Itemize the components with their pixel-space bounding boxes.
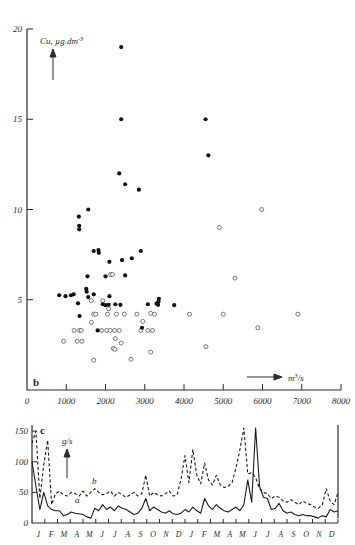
panel-c-month-label: O: [150, 530, 156, 539]
data-point-open: [233, 276, 237, 280]
data-point-filled: [92, 249, 96, 253]
data-point-open: [153, 312, 157, 316]
panel-b-y-tick-label: 20: [13, 24, 23, 34]
data-point-filled: [123, 273, 127, 277]
panel-c-month-label: A: [277, 530, 283, 539]
data-point-open: [260, 208, 264, 212]
panel-c-month-label: J: [37, 530, 41, 539]
data-point-filled: [140, 326, 144, 330]
panel-b-x-tick-label: 6000: [254, 396, 273, 406]
panel-c-y-arrow-icon: [64, 449, 70, 478]
data-point-open: [146, 328, 150, 332]
panel-b-x-ticks: 010002000300040005000600070008000: [25, 384, 351, 406]
data-point-open: [114, 312, 118, 316]
panel-c-month-label: D: [328, 530, 335, 539]
data-point-open: [113, 328, 117, 332]
data-point-open: [89, 320, 93, 324]
panel-b-label: b: [33, 376, 39, 388]
data-point-filled: [92, 292, 96, 296]
panel-b-x-tick-label: 4000: [175, 396, 194, 406]
panel-b-axis-lines: [27, 29, 341, 390]
panel-b-x-tick-label: 3000: [135, 396, 155, 406]
data-point-filled: [85, 274, 89, 278]
panel-b-y-arrow-icon: [50, 49, 56, 80]
data-point-filled: [77, 227, 81, 231]
panel-b-y-tick-label: 15: [13, 114, 23, 124]
panel-c-month-label: N: [315, 530, 322, 539]
data-point-open: [129, 357, 133, 361]
data-point-filled: [117, 171, 121, 175]
data-point-filled: [77, 224, 81, 228]
panel-c-month-label: F: [201, 530, 207, 539]
data-point-open: [217, 226, 221, 230]
panel-c-y-tick-label: 50: [19, 487, 29, 497]
data-point-open: [75, 339, 79, 343]
panel-c-month-label: O: [303, 530, 309, 539]
data-point-filled: [146, 302, 150, 306]
data-point-open: [111, 272, 115, 276]
panel-c-y-tick-label: 100: [15, 457, 29, 467]
panel-c-month-label: M: [213, 530, 222, 539]
panel-b-x-tick-label: 2000: [97, 396, 116, 406]
panel-b-x-axis-label: m3/s: [288, 372, 304, 384]
data-point-open: [296, 312, 300, 316]
panel-c-month-label: A: [73, 530, 79, 539]
data-point-filled: [120, 258, 124, 262]
data-point-open: [107, 307, 111, 311]
data-point-open: [187, 312, 191, 316]
data-point-open: [62, 339, 66, 343]
figure-container: 5101520 01000200030004000500060007000800…: [0, 0, 355, 545]
data-point-filled: [85, 290, 89, 294]
panel-c-month-label: J: [190, 530, 194, 539]
data-point-open: [149, 350, 153, 354]
panel-c-month-label: J: [253, 530, 257, 539]
data-point-filled: [96, 328, 100, 332]
data-point-filled: [118, 303, 122, 307]
data-point-open: [122, 312, 126, 316]
data-point-filled: [86, 207, 90, 211]
data-point-open: [113, 337, 117, 341]
data-point-filled: [103, 274, 107, 278]
panel-c-month-label: J: [100, 530, 104, 539]
data-point-open: [80, 339, 84, 343]
data-point-filled: [119, 45, 123, 49]
data-point-filled: [107, 303, 111, 307]
panel-b-open-markers: [62, 208, 300, 363]
panel-c-month-label: S: [138, 530, 142, 539]
panel-c-month-label: M: [60, 530, 69, 539]
panel-c-month-label: D: [175, 530, 182, 539]
panel-c-line-plot: 050100150 JFMAMJJASONDJFMAMJJASOND c g/s…: [0, 410, 355, 545]
panel-b-y-ticks: 5101520: [13, 24, 33, 305]
panel-b-x-tick-label: 0: [25, 396, 30, 406]
data-point-filled: [139, 249, 143, 253]
panel-c-y-axis-label: g/s: [62, 436, 73, 446]
data-point-filled: [77, 314, 81, 318]
data-point-filled: [69, 293, 73, 297]
panel-c-month-label: S: [291, 530, 295, 539]
panel-c-month-label: M: [238, 530, 247, 539]
data-point-open: [79, 328, 83, 332]
panel-b-y-axis-label: Cu, µg.dm-3: [40, 35, 84, 46]
panel-c-month-label: J: [266, 530, 270, 539]
data-point-open: [221, 312, 225, 316]
data-point-open: [113, 347, 117, 351]
data-point-filled: [203, 117, 207, 121]
panel-b-x-tick-label: 7000: [293, 396, 312, 406]
data-point-open: [141, 319, 145, 323]
data-point-filled: [123, 182, 127, 186]
data-point-open: [92, 358, 96, 362]
panel-b-x-tick-label: 5000: [214, 396, 233, 406]
data-point-filled: [57, 293, 61, 297]
panel-c-month-label: A: [124, 530, 130, 539]
panel-c-month-label: J: [113, 530, 117, 539]
data-point-filled: [206, 153, 210, 157]
data-point-filled: [172, 303, 176, 307]
data-point-open: [89, 299, 93, 303]
panel-b-axes: [27, 29, 341, 390]
panel-b-filled-markers: [57, 45, 210, 333]
data-point-filled: [77, 215, 81, 219]
data-point-open: [72, 328, 76, 332]
panel-b-x-tick-label: 8000: [332, 396, 351, 406]
data-point-filled: [97, 251, 101, 255]
panel-c-y-tick-label: 150: [15, 426, 29, 436]
